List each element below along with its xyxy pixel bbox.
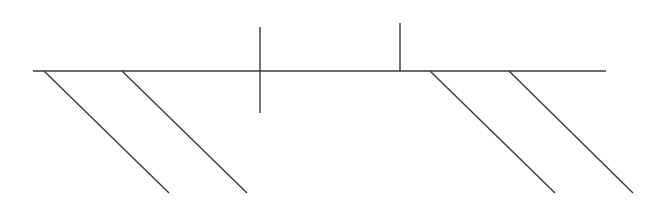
diagram-svg xyxy=(0,0,653,202)
diagonal-line-2 xyxy=(122,71,247,193)
line-diagram xyxy=(0,0,653,202)
diagonal-line-1 xyxy=(44,71,169,193)
lines-group xyxy=(33,23,633,193)
diagonal-line-4 xyxy=(509,71,633,193)
diagonal-line-3 xyxy=(430,71,555,193)
